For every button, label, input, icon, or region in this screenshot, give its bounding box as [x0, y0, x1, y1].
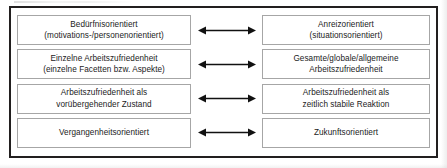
page-edge-shading-right — [441, 0, 447, 168]
comparison-row: Vergangenheitsorientiert Zukunftsorienti… — [17, 118, 430, 148]
comparison-row: Bedürfnisorientiert (motivations-/person… — [17, 15, 430, 45]
concept-line: (situationsorientiert) — [310, 30, 383, 42]
concept-line: zeitlich stabile Reaktion — [303, 99, 390, 111]
concept-box-right: Zukunftsorientiert — [262, 118, 430, 148]
double-headed-arrow-icon — [198, 93, 256, 104]
scan-artifact-line — [14, 1, 134, 3]
concept-line: (motivations-/personenorientiert) — [44, 30, 164, 42]
concept-box-right: Arbeitszufriedenheit als zeitlich stabil… — [262, 84, 430, 114]
concept-line: Arbeitszufriedenheit — [309, 64, 382, 76]
double-headed-arrow-icon — [198, 25, 256, 36]
concept-line: Arbeitszufriedenheit als — [303, 87, 389, 99]
arrow-cell — [191, 49, 262, 79]
double-headed-arrow-icon — [198, 59, 256, 70]
arrow-cell — [191, 118, 262, 148]
comparison-row: Arbeitszufriedenheit als vorübergehender… — [17, 84, 430, 114]
concept-box-left: Bedürfnisorientiert (motivations-/person… — [17, 15, 191, 45]
concept-line: Vergangenheitsorientiert — [59, 127, 149, 139]
concept-box-right: Anreizorientiert (situationsorientiert) — [262, 15, 430, 45]
concept-box-left: Arbeitszufriedenheit als vorübergehender… — [17, 84, 191, 114]
comparison-rows: Bedürfnisorientiert (motivations-/person… — [11, 8, 436, 156]
arrow-cell — [191, 15, 262, 45]
concept-line: Anreizorientiert — [318, 19, 374, 31]
comparison-row: Einzelne Arbeitszufriedenheit (einzelne … — [17, 49, 430, 79]
concept-box-left: Einzelne Arbeitszufriedenheit (einzelne … — [17, 49, 191, 79]
arrow-cell — [191, 84, 262, 114]
concept-box-left: Vergangenheitsorientiert — [17, 118, 191, 148]
page-edge-shading-bottom — [0, 164, 447, 168]
double-headed-arrow-icon — [198, 127, 256, 138]
concept-line: Zukunftsorientiert — [314, 127, 378, 139]
concept-line: Einzelne Arbeitszufriedenheit — [50, 53, 157, 65]
concept-line: Arbeitszufriedenheit als — [61, 87, 147, 99]
concept-box-right: Gesamte/globale/allgemeine Arbeitszufrie… — [262, 49, 430, 79]
concept-line: Gesamte/globale/allgemeine — [293, 53, 398, 65]
concept-line: Bedürfnisorientiert — [70, 19, 137, 31]
concept-line: vorübergehender Zustand — [56, 99, 151, 111]
concept-line: (einzelne Facetten bzw. Aspekte) — [43, 64, 165, 76]
figure-frame: Bedürfnisorientiert (motivations-/person… — [9, 6, 438, 158]
